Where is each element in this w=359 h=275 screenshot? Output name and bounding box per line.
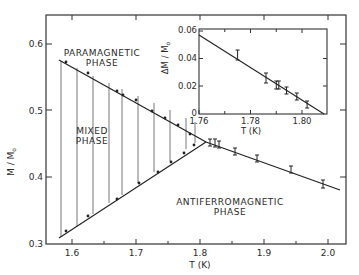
inset-x-tick-1-80: 1.80	[293, 116, 312, 126]
x-tick-1-8: 1.8	[193, 248, 208, 258]
y-tick-0-6: 0.6	[29, 39, 44, 49]
inset-y-tick-0: 0	[192, 108, 197, 118]
mixed-phase-tie-lines	[61, 61, 195, 237]
y-tick-0-5: 0.5	[29, 106, 43, 116]
inset-y-axis-label: ΔM / Mo	[160, 41, 171, 74]
lower-boundary-line	[59, 142, 206, 238]
inset-y-tick-0-04: 0.04	[178, 53, 197, 63]
y-tick-0-4: 0.4	[29, 172, 44, 182]
x-tick-1-6: 1.6	[65, 248, 80, 258]
x-tick-1-7: 1.7	[129, 248, 143, 258]
y-tick-0-3: 0.3	[29, 239, 43, 249]
lower-boundary-points	[65, 144, 196, 233]
paramagnetic-label-line1: PARAMAGNETIC	[64, 48, 141, 58]
main-x-tick-labels: 1.6 1.7 1.8 1.9 2.0	[65, 248, 336, 258]
inset-x-axis-label: T (K)	[240, 126, 261, 136]
mixed-label-line2: PHASE	[76, 136, 108, 146]
main-y-tick-labels: 0.3 0.4 0.5 0.6	[29, 39, 44, 249]
x-tick-2-0: 2.0	[321, 248, 336, 258]
phase-diagram-figure: 1.6 1.7 1.8 1.9 2.0 0.3 0.4 0.5 0.6 T (K…	[0, 0, 359, 275]
single-phase-line	[206, 142, 340, 190]
inset-x-tick-1-78: 1.78	[241, 116, 260, 126]
main-y-axis-label: M / Mo	[6, 148, 17, 176]
antiferromagnetic-label-line2: PHASE	[214, 207, 246, 217]
antiferromagnetic-label-line1: ANTIFERROMAGNETIC	[176, 197, 284, 207]
inset-y-tick-0-02: 0.02	[178, 81, 197, 91]
inset-y-tick-0-06: 0.06	[178, 25, 197, 35]
x-tick-1-9: 1.9	[257, 248, 272, 258]
main-x-axis-label: T (K)	[188, 260, 210, 270]
inset-y-tick-labels: 0 0.02 0.04 0.06	[178, 25, 197, 118]
inset-x-tick-labels: 1.76 1.78 1.80	[190, 116, 312, 126]
svg-text:M / Mo: M / Mo	[6, 148, 17, 176]
paramagnetic-label-line2: PHASE	[86, 58, 118, 68]
inset-plot: 1.76 1.78 1.80 0 0.02 0.04 0.06 T (K) ΔM…	[160, 25, 327, 136]
mixed-label-line1: MIXED	[76, 126, 108, 136]
svg-text:ΔM / Mo: ΔM / Mo	[160, 41, 171, 74]
